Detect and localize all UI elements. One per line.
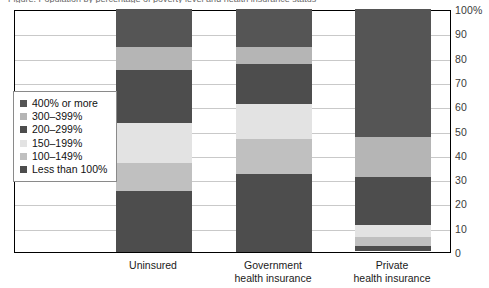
legend-label: 300–399% <box>32 111 82 122</box>
bar-segment <box>236 104 312 139</box>
bar-segment <box>355 246 431 251</box>
y-tick-label: 0 <box>455 248 461 258</box>
bar-segment <box>355 237 431 246</box>
legend-item-1[interactable]: 400% or more <box>20 97 107 110</box>
legend-item-3[interactable]: 200–299% <box>20 123 107 136</box>
chart-figure: Figure: Population by percentage of pove… <box>0 0 489 288</box>
bar-segment <box>116 47 192 70</box>
y-tick-label: 100% <box>455 5 483 15</box>
bar-segment <box>116 9 192 47</box>
legend-item-4[interactable]: 150–199% <box>20 137 107 150</box>
legend-label: 100–149% <box>32 151 82 162</box>
bar-segment <box>355 177 431 226</box>
y-tick-label: 70 <box>455 78 467 88</box>
legend-swatch-icon <box>20 113 27 120</box>
bar-segment <box>236 47 312 64</box>
y-tick-label: 10 <box>455 224 467 234</box>
y-tick-label: 90 <box>455 29 467 39</box>
x-axis-label: Privatehealth insurance <box>317 259 467 285</box>
bar-segment <box>355 225 431 237</box>
legend-swatch-icon <box>20 140 27 147</box>
bar-3 <box>355 9 431 252</box>
y-tick-label: 50 <box>455 127 467 137</box>
legend-item-6[interactable]: Less than 100% <box>20 163 107 176</box>
bar-segment <box>116 70 192 123</box>
y-tick-label: 60 <box>455 102 467 112</box>
legend-label: Less than 100% <box>32 164 107 175</box>
bar-segment <box>236 139 312 174</box>
bar-segment <box>236 174 312 252</box>
bar-2 <box>236 9 312 252</box>
x-axis-label-line: Private <box>317 259 467 272</box>
legend-rows: 400% or more300–399%200–299%150–199%100–… <box>20 97 107 176</box>
y-tick-label: 20 <box>455 199 467 209</box>
y-tick-label: 80 <box>455 54 467 64</box>
figure-caption: Figure: Population by percentage of pove… <box>8 0 428 3</box>
legend-item-2[interactable]: 300–399% <box>20 110 107 123</box>
bar-1 <box>116 9 192 252</box>
legend-item-5[interactable]: 100–149% <box>20 150 107 163</box>
legend-label: 400% or more <box>32 98 98 109</box>
legend-swatch-icon <box>20 100 27 107</box>
x-axis-label-line: health insurance <box>317 272 467 285</box>
bar-segment <box>116 163 192 191</box>
legend-swatch-icon <box>20 153 27 160</box>
legend-label: 150–199% <box>32 138 82 149</box>
y-tick-label: 40 <box>455 151 467 161</box>
y-tick-label: 30 <box>455 175 467 185</box>
legend-swatch-icon <box>20 166 27 173</box>
bar-segment <box>355 137 431 177</box>
bar-segment <box>236 9 312 47</box>
bar-segment <box>116 191 192 252</box>
chart-legend: 400% or more300–399%200–299%150–199%100–… <box>13 91 117 182</box>
bar-segment <box>116 123 192 163</box>
bar-segment <box>355 9 431 137</box>
legend-swatch-icon <box>20 126 27 133</box>
bar-segment <box>236 64 312 104</box>
legend-label: 200–299% <box>32 124 82 135</box>
